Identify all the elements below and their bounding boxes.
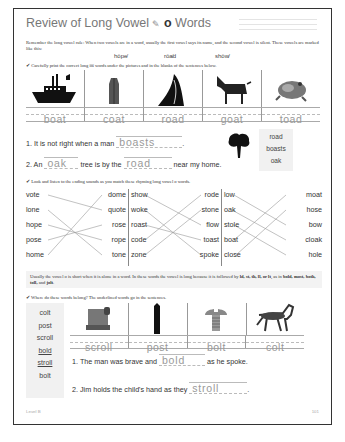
- answer-text: bolt: [207, 341, 226, 353]
- blank-road[interactable]: road: [124, 157, 172, 169]
- match-left-col-1: vote lone hope pose home: [26, 189, 44, 264]
- answer-text: coat: [103, 113, 125, 125]
- match-word[interactable]: pose: [26, 234, 44, 249]
- section2-instruction: ✔ Look and listen to the ending sounds a…: [26, 179, 190, 184]
- match-word[interactable]: rope: [88, 234, 126, 249]
- intro-text: Remember the long vowel rule: When two v…: [26, 40, 322, 51]
- match-word[interactable]: code: [131, 234, 148, 249]
- example-hope: hōpe̸: [114, 53, 127, 59]
- match-word[interactable]: rose: [88, 219, 126, 234]
- section1-instruction: ✔ Carefully print the correct long o̅a̅ …: [26, 63, 216, 68]
- note-text: , as in: [271, 274, 283, 279]
- blank-boasts[interactable]: boasts: [116, 136, 182, 148]
- sentence-3: 1. The man was brave and bold as he spok…: [72, 354, 248, 366]
- match-word[interactable]: flow: [186, 219, 219, 234]
- sentence-text: .: [247, 385, 249, 394]
- post-icon: [129, 303, 188, 335]
- match-word[interactable]: toast: [186, 234, 219, 249]
- page-title: Review of Long Vowel ✎ o Words: [26, 16, 211, 30]
- pencil-icon: ✎: [152, 19, 160, 29]
- match-word[interactable]: boat: [224, 234, 241, 249]
- match-word[interactable]: cloak: [282, 234, 322, 249]
- answer-field-colt[interactable]: colt: [246, 336, 304, 348]
- blank-oak[interactable]: oak: [44, 157, 78, 169]
- match-word[interactable]: hole: [282, 249, 322, 264]
- check-icon: ✔: [26, 179, 30, 184]
- boat-icon: [26, 70, 85, 108]
- match-word[interactable]: home: [26, 249, 44, 264]
- answer-field-scroll[interactable]: scroll: [70, 336, 129, 348]
- match-word[interactable]: oak: [224, 204, 241, 219]
- match-word[interactable]: lone: [26, 204, 44, 219]
- road-icon: [144, 70, 203, 108]
- blank-bold[interactable]: bold: [159, 354, 205, 366]
- match-word[interactable]: dome: [88, 189, 126, 204]
- column-divider: [128, 189, 129, 266]
- match-word[interactable]: moat: [282, 189, 322, 204]
- section3-instruction-text: Where do these words belong? The underli…: [31, 295, 166, 300]
- answer-field-toad[interactable]: toad: [262, 108, 320, 121]
- note-text: Usually the vowel o is short when it is …: [30, 274, 240, 279]
- match-word[interactable]: woke: [131, 204, 148, 219]
- match-word[interactable]: zone: [131, 249, 148, 264]
- answer-field-goat[interactable]: goat: [203, 108, 262, 121]
- sentence-1: 1. It is not right when a man boasts.: [26, 136, 184, 148]
- scroll-icon: [70, 303, 129, 335]
- match-word[interactable]: show: [131, 189, 148, 204]
- word-bank-item: post: [26, 320, 64, 333]
- answer-field-coat[interactable]: coat: [85, 108, 144, 121]
- match-word[interactable]: hose: [282, 204, 322, 219]
- goat-icon: [203, 70, 262, 108]
- match-word[interactable]: low: [224, 189, 241, 204]
- match-word[interactable]: spoke: [186, 249, 219, 264]
- word-bank-item-underlined: bold: [26, 345, 64, 358]
- sentence-text: near my home.: [174, 160, 222, 169]
- check-icon: ✔: [26, 63, 30, 68]
- match-word[interactable]: roast: [131, 219, 148, 234]
- page-number: 101: [312, 409, 319, 414]
- title-prefix: Review of Long Vowel: [26, 16, 149, 30]
- match-word[interactable]: rode: [186, 189, 219, 204]
- check-icon: ✔: [26, 295, 30, 300]
- name-lines: [239, 19, 317, 34]
- answer-text: scroll: [85, 341, 113, 353]
- word-bank-item: bolt: [26, 370, 64, 383]
- tree-icon: [227, 132, 251, 160]
- word-bank-2: colt post scroll bold stroll bolt: [26, 303, 64, 398]
- match-word[interactable]: tone: [88, 249, 126, 264]
- sentence-end: .: [182, 139, 184, 148]
- match-word[interactable]: close: [224, 249, 241, 264]
- word-bank-item-underlined: stroll: [26, 357, 64, 370]
- match-word[interactable]: vote: [26, 189, 44, 204]
- sentence-number: 1.: [26, 139, 32, 148]
- match-word[interactable]: quote: [88, 204, 126, 219]
- answer-field-post[interactable]: post: [129, 336, 188, 348]
- sentence-text: as he spoke.: [207, 357, 248, 366]
- sentence-text: Jim holds the child's hand as they: [80, 385, 187, 394]
- match-word[interactable]: stole: [224, 219, 241, 234]
- matching-exercise: vote lone hope pose home dome quote rose…: [26, 189, 322, 269]
- section1-answer-row: boat coat road goat toad: [26, 107, 320, 122]
- word-bank-item: scroll: [26, 332, 64, 345]
- colt-icon: [247, 303, 305, 335]
- answer-text: colt: [266, 341, 284, 353]
- answer-field-road[interactable]: road: [144, 108, 203, 121]
- section3-answer-row: scroll post bolt colt: [70, 335, 304, 349]
- match-word[interactable]: stone: [186, 204, 219, 219]
- match-left-col-3: low oak stole boat close: [224, 189, 241, 264]
- sentence-2: 2. An oak tree is by the road near my ho…: [26, 157, 222, 169]
- match-word[interactable]: bow: [282, 219, 322, 234]
- section3-pictures: [70, 303, 304, 335]
- section2-instruction-text: Look and listen to the ending sounds as …: [31, 179, 190, 184]
- sentence-number: 1.: [72, 357, 78, 366]
- section1-instruction-text: Carefully print the correct long o̅a̅ wo…: [31, 63, 216, 68]
- match-word[interactable]: hope: [26, 219, 44, 234]
- footer-level: Level B: [26, 409, 41, 414]
- toad-icon: [262, 70, 320, 108]
- match-right-col-1: dome quote rose rope tone: [88, 189, 126, 264]
- answer-field-boat[interactable]: boat: [26, 108, 85, 121]
- answer-field-bolt[interactable]: bolt: [188, 336, 247, 348]
- title-vowel: o: [164, 16, 172, 30]
- blank-stroll[interactable]: stroll: [189, 382, 247, 394]
- match-right-col-2: rode stone flow toast spoke: [186, 189, 219, 264]
